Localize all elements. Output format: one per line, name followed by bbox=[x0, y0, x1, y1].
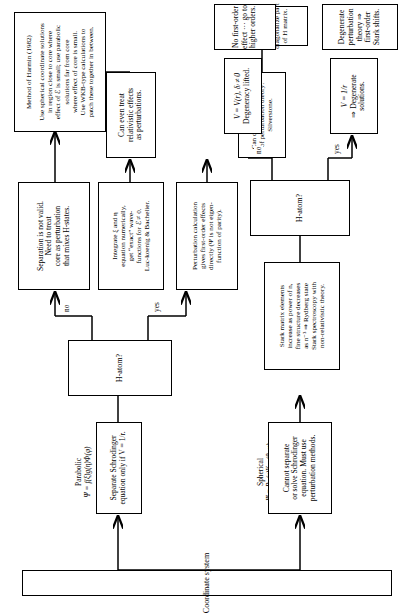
spherical-name: Spherical bbox=[256, 458, 265, 486]
line: solutions. bbox=[358, 81, 367, 110]
no-text: no bbox=[254, 147, 263, 154]
node-perturbation-calculation: Perturbation calculation gives first-ord… bbox=[176, 182, 238, 290]
no-text: no bbox=[62, 305, 71, 312]
edge-label-yes-upper: yes bbox=[152, 301, 161, 313]
branch-label-parabolic: Parabolic Ψ = f(ξ)g(η)Φ(φ) bbox=[74, 420, 93, 524]
line: equation only if V = 1/r. bbox=[119, 431, 128, 504]
edge-label-no-upper: no bbox=[62, 304, 71, 313]
line: function of parity). bbox=[215, 209, 223, 263]
line: fine structure decreases bbox=[294, 283, 302, 350]
line: Degeneracy lifted. bbox=[243, 68, 252, 124]
node-coordinate-system: Coordinate system bbox=[22, 570, 392, 596]
line: Stark spectroscopy with bbox=[310, 282, 318, 350]
line: effect of ℰ is small; use parabolic bbox=[54, 25, 62, 119]
edge-label-no-lower: no bbox=[254, 146, 263, 155]
line: as n⁻³ ⇒ Rydberg state bbox=[302, 283, 310, 349]
line: Perturbation calculation bbox=[191, 202, 199, 270]
node-stark-matrix-elements: Stark matrix elements increase as power … bbox=[264, 262, 340, 370]
line: of H matrix. bbox=[281, 9, 289, 44]
line: Integrate ξ and η bbox=[111, 212, 119, 260]
line: functions for ℰ ≠ 0. bbox=[135, 209, 143, 264]
node-separate-schrodinger: Separate Schrodinger equation only if V … bbox=[96, 422, 142, 514]
node-degenerate-perturbation: Degenerate perturbation theory ⇒ first-o… bbox=[322, 4, 398, 50]
node-method-of-harmin: Method of Harmin (1982) Use spherical co… bbox=[14, 12, 106, 132]
coordinate-system-label: Coordinate system bbox=[202, 553, 211, 613]
line: as perturbations. bbox=[135, 90, 144, 140]
line: solutions far from core bbox=[63, 40, 71, 105]
line: perturbation methods. bbox=[309, 435, 318, 502]
line: Use WKB-type calculations to bbox=[79, 29, 87, 116]
line: increase as power of n, bbox=[286, 283, 294, 348]
node-separation-not-valid: Separation is not valid. Need to treat c… bbox=[18, 182, 90, 290]
line: Stark matrix elements bbox=[278, 285, 286, 347]
line: Use spherical coordinate solutions bbox=[38, 23, 46, 121]
line: directly (Ψ is not eigen- bbox=[207, 202, 215, 270]
node-v-one-over-r: V = 1/r ⇒ Degenerate solutions. bbox=[330, 58, 378, 134]
yes-text: yes bbox=[152, 302, 161, 312]
line: Luc-koenig & Bachelier. bbox=[143, 201, 151, 271]
line: equation numerically, bbox=[119, 205, 127, 266]
node-h-atom-lower: H-atom? bbox=[250, 180, 350, 236]
line: Stark shifts. bbox=[373, 9, 382, 45]
harmin-title: Method of Harmin (1982) bbox=[25, 35, 33, 109]
line: patch these together in between. bbox=[87, 26, 95, 117]
edge-label-yes-lower: yes bbox=[332, 143, 341, 155]
line: non-relativistic theory. bbox=[318, 284, 326, 348]
parabolic-name: Parabolic bbox=[74, 458, 83, 486]
node-h-atom-upper: H-atom? bbox=[68, 340, 172, 396]
line: Silverstone. bbox=[266, 98, 274, 132]
node-cannot-separate: Cannot separate or solve Schrodinger equ… bbox=[268, 422, 332, 514]
node-can-even-treat: Can even treat relativistic effects as p… bbox=[106, 72, 156, 158]
line: that mixes H-states. bbox=[63, 206, 72, 266]
yes-text: yes bbox=[332, 144, 341, 154]
line: in region close to core where bbox=[46, 31, 54, 113]
line: H-atom? bbox=[115, 354, 124, 382]
line: gives first-order effects bbox=[199, 203, 207, 269]
parabolic-formula: Ψ = f(ξ)g(η)Φ(φ) bbox=[83, 447, 92, 498]
line: H-atom? bbox=[295, 194, 304, 222]
line: where effect of core is small. bbox=[71, 31, 79, 113]
node-v-of-r: V = V(r), δₗ ≠ 0 Degeneracy lifted. bbox=[224, 58, 262, 134]
line: higher orders. bbox=[249, 6, 258, 48]
node-no-first-order: No first-order effect ··· go to higher o… bbox=[214, 4, 276, 50]
node-integrate-xi-eta: Integrate ξ and η equation numerically, … bbox=[98, 182, 164, 290]
line: get “exact” wave- bbox=[127, 211, 135, 262]
